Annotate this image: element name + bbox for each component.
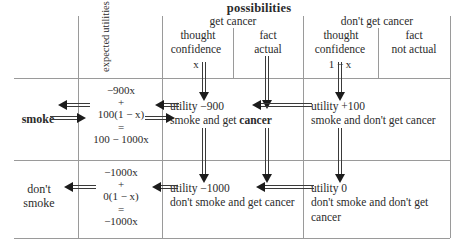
subheader-actual-get-cancer: actual [234, 43, 302, 57]
subheader-not-actual-dont-get-cancer: not actual [379, 43, 449, 57]
smoke-get-cancer-description: smoke and get cancer [170, 113, 306, 128]
subheader-fact-dont-get-cancer: fact [379, 29, 449, 43]
arrow-down-confidence-1-minus-x [335, 62, 345, 102]
row-divider-rule [14, 160, 450, 161]
dont-smoke-eu-term1: −1000x [80, 166, 162, 178]
row-label-dont-smoke-line1: don't [8, 182, 70, 196]
group-header-get-cancer: get cancer [163, 15, 303, 29]
expected-utilities-line1: expected [100, 35, 111, 72]
expected-utilities-line2: utilities [100, 1, 111, 33]
arrow-left-smoke-row-inner [252, 100, 312, 110]
header-bottom-rule [14, 78, 450, 79]
arrow-right-eu-to-smoke-cell [145, 113, 175, 123]
arrow-left-dont-smoke-to-eu [152, 182, 178, 192]
smoke-get-cancer-desc-pre: smoke and get [170, 114, 239, 126]
subheader-thought-dont-get-cancer: thought [304, 29, 378, 43]
smoke-no-cancer-utility: utility +100 [311, 99, 441, 114]
subheader-fact-get-cancer: fact [234, 29, 302, 43]
arrow-right-smoke-label-to-eu [50, 113, 86, 123]
arrow-left-eu-to-dont-smoke-label [64, 182, 96, 192]
table-bottom-rule [14, 238, 450, 239]
vertical-rule-1 [78, 16, 79, 238]
arrow-down-fact-actual-dont-smoke [262, 128, 272, 186]
expected-utilities-header: expected utilities [100, 6, 130, 72]
subheader-confidence-get-cancer: confidence [158, 43, 234, 57]
dont-smoke-eu-equals: = [80, 203, 162, 215]
smoke-eu-operator: + [80, 96, 162, 108]
dont-smoke-eu-result: −1000x [80, 215, 162, 227]
smoke-no-cancer-description: smoke and don't get cancer [311, 113, 436, 128]
row-label-dont-smoke-line2: smoke [8, 196, 70, 210]
smoke-eu-result: 100 − 1000x [79, 133, 163, 145]
arrow-down-confidence-x [199, 62, 209, 102]
dont-smoke-no-cancer-utility: utility 0 [311, 181, 441, 196]
decision-table-diagram: possibilities expected utilities get can… [0, 0, 466, 248]
diagram-title-text: possibilities [227, 1, 291, 16]
diagram-title: possibilities [0, 1, 466, 16]
smoke-get-cancer-desc-bold: cancer [239, 114, 272, 126]
probability-get-cancer: x [158, 58, 234, 71]
vertical-rule-right [450, 16, 451, 238]
dont-smoke-no-cancer-description: don't smoke and don't get cancer [311, 195, 441, 225]
arrow-down-get-cancer-column [199, 128, 209, 186]
arrow-left-smoke-to-eu [155, 100, 179, 110]
group-header-dont-get-cancer: don't get cancer [304, 15, 450, 29]
arrow-left-eu-to-smoke-label [58, 100, 90, 110]
subheader-thought-get-cancer: thought [164, 29, 232, 43]
subheader-confidence-dont-get-cancer: confidence [300, 43, 380, 57]
smoke-eu-term1: −900x [80, 84, 162, 96]
dont-smoke-get-cancer-description: don't smoke and get cancer [170, 195, 298, 210]
arrow-down-no-cancer-column [335, 128, 345, 186]
arrow-left-dont-smoke-row-inner [256, 182, 314, 192]
